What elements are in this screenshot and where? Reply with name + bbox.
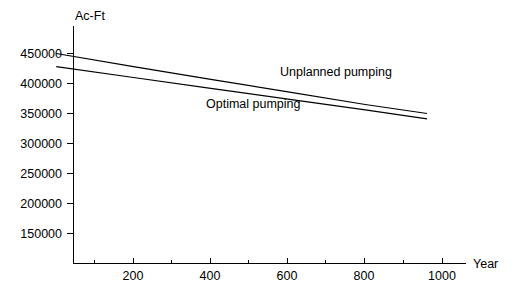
y-tick-label: 350000 — [20, 107, 62, 121]
x-tick-label: 400 — [200, 269, 221, 283]
series-label-unplanned-pumping: Unplanned pumping — [280, 65, 392, 79]
axes-group — [73, 26, 466, 264]
x-axis-title: Year — [473, 257, 498, 271]
x-tick-label: 1000 — [428, 269, 456, 283]
y-axis-tick-labels: 150000 200000 250000 300000 350000 40000… — [20, 47, 62, 241]
chart-canvas: 150000 200000 250000 300000 350000 40000… — [0, 0, 520, 303]
y-tick-label: 150000 — [20, 227, 62, 241]
y-tick-label: 450000 — [20, 47, 62, 61]
x-axis-tick-labels: 200 400 600 800 1000 — [123, 269, 456, 283]
x-tick-label: 800 — [354, 269, 375, 283]
x-tick-label: 600 — [277, 269, 298, 283]
chart-figure: 150000 200000 250000 300000 350000 40000… — [0, 0, 520, 303]
y-axis-ticks — [67, 54, 74, 234]
series-label-optimal-pumping: Optimal pumping — [206, 97, 301, 111]
x-axis-ticks — [95, 258, 443, 264]
y-tick-label: 200000 — [20, 197, 62, 211]
y-tick-label: 300000 — [20, 137, 62, 151]
y-tick-label: 250000 — [20, 167, 62, 181]
x-tick-label: 200 — [123, 269, 144, 283]
y-tick-label: 400000 — [20, 77, 62, 91]
y-axis-title: Ac-Ft — [75, 9, 105, 23]
